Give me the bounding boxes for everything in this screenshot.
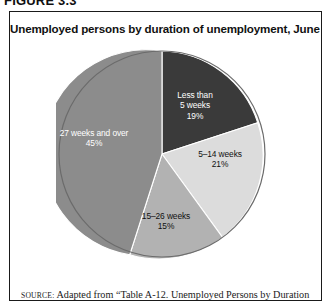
pie-label-line-2: 5 weeks — [158, 100, 232, 110]
pie-label-27-weeks-and-over: 27 weeks and over 45% — [38, 128, 150, 149]
pie-label-5-14-weeks: 5–14 weeks 21% — [182, 149, 258, 170]
source-text: Adapted from “Table A-12. Unemployed Per… — [54, 289, 309, 300]
source-keyword: SOURCE: — [21, 291, 54, 300]
pie-label-line-1: 15–26 weeks — [126, 211, 206, 221]
pie-label-value: 19% — [158, 111, 232, 121]
source-note: SOURCE: Adapted from “Table A-12. Unempl… — [21, 289, 309, 300]
pie-label-less-than-5-weeks: Less than 5 weeks 19% — [158, 90, 232, 121]
pie-label-value: 45% — [38, 138, 150, 148]
pie-label-value: 21% — [182, 159, 258, 169]
pie-chart: Less than 5 weeks 19% 5–14 weeks 21% 15–… — [10, 12, 322, 301]
pie-label-value: 15% — [126, 221, 206, 231]
pie-label-line-1: Less than — [158, 90, 232, 100]
pie-label-15-26-weeks: 15–26 weeks 15% — [126, 211, 206, 232]
figure-number-label: FIGURE 3.3 — [4, 0, 77, 8]
pie-label-line-1: 5–14 weeks — [182, 149, 258, 159]
pie-label-line-1: 27 weeks and over — [38, 128, 150, 138]
figure-frame: Unemployed persons by duration of unempl… — [9, 11, 322, 301]
